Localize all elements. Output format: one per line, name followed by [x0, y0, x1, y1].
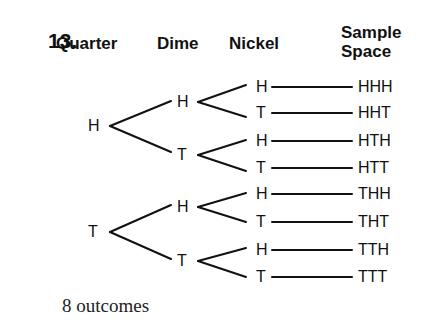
outcome-tth: TTH	[358, 242, 389, 258]
quarter-node-t: T	[88, 224, 98, 240]
outcomes-count: 8 outcomes	[62, 295, 149, 317]
nickel-node: T	[256, 160, 266, 176]
outcome-htt: HTT	[358, 160, 389, 176]
quarter-node-h: H	[88, 118, 100, 134]
nickel-node: H	[256, 242, 268, 258]
dime-node: T	[177, 253, 187, 269]
nickel-node: T	[256, 214, 266, 230]
nickel-node: H	[256, 133, 268, 149]
nickel-node: T	[256, 269, 266, 285]
outcome-ttt: TTT	[358, 269, 387, 285]
nickel-node: T	[256, 105, 266, 121]
outcome-hth: HTH	[358, 133, 391, 149]
dime-node: H	[177, 199, 189, 215]
outcome-hhh: HHH	[358, 79, 393, 95]
outcome-tht: THT	[358, 214, 389, 230]
nickel-node: H	[256, 79, 268, 95]
outcome-hht: HHT	[358, 105, 391, 121]
dime-node: H	[177, 94, 189, 110]
dime-node: T	[177, 147, 187, 163]
nickel-node: H	[256, 186, 268, 202]
outcome-thh: THH	[358, 186, 391, 202]
